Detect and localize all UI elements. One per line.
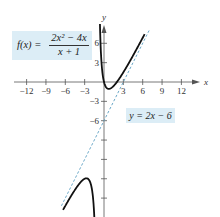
curve-left-branch: [63, 178, 95, 217]
asymptote-label: y = 2x − 6: [126, 108, 175, 123]
y-tick-label: 3: [95, 58, 100, 68]
x-axis-label: x: [203, 77, 208, 87]
function-label: f(x) = 2x² − 4x x + 1: [12, 31, 92, 60]
x-tick-label: −12: [20, 86, 34, 96]
function-numerator: 2x² − 4x: [49, 32, 89, 43]
x-tick-label: −6: [61, 86, 71, 96]
y-tick-label: −3: [89, 96, 99, 106]
x-tick-label: −9: [41, 86, 51, 96]
function-denominator: x + 1: [49, 46, 89, 57]
x-tick-label: 3: [121, 86, 126, 96]
y-axis-label: y: [101, 12, 106, 22]
y-tick-label: −6: [89, 116, 99, 126]
x-tick-label: 6: [140, 86, 145, 96]
y-tick-label: 6: [95, 38, 100, 48]
function-lhs: f(x) =: [17, 39, 41, 50]
x-tick-label: −3: [80, 86, 90, 96]
x-tick-label: 12: [177, 86, 186, 96]
x-tick-label: 9: [160, 86, 165, 96]
x-axis-arrow-icon: [192, 80, 200, 85]
y-axis-arrow-icon: [102, 25, 107, 33]
